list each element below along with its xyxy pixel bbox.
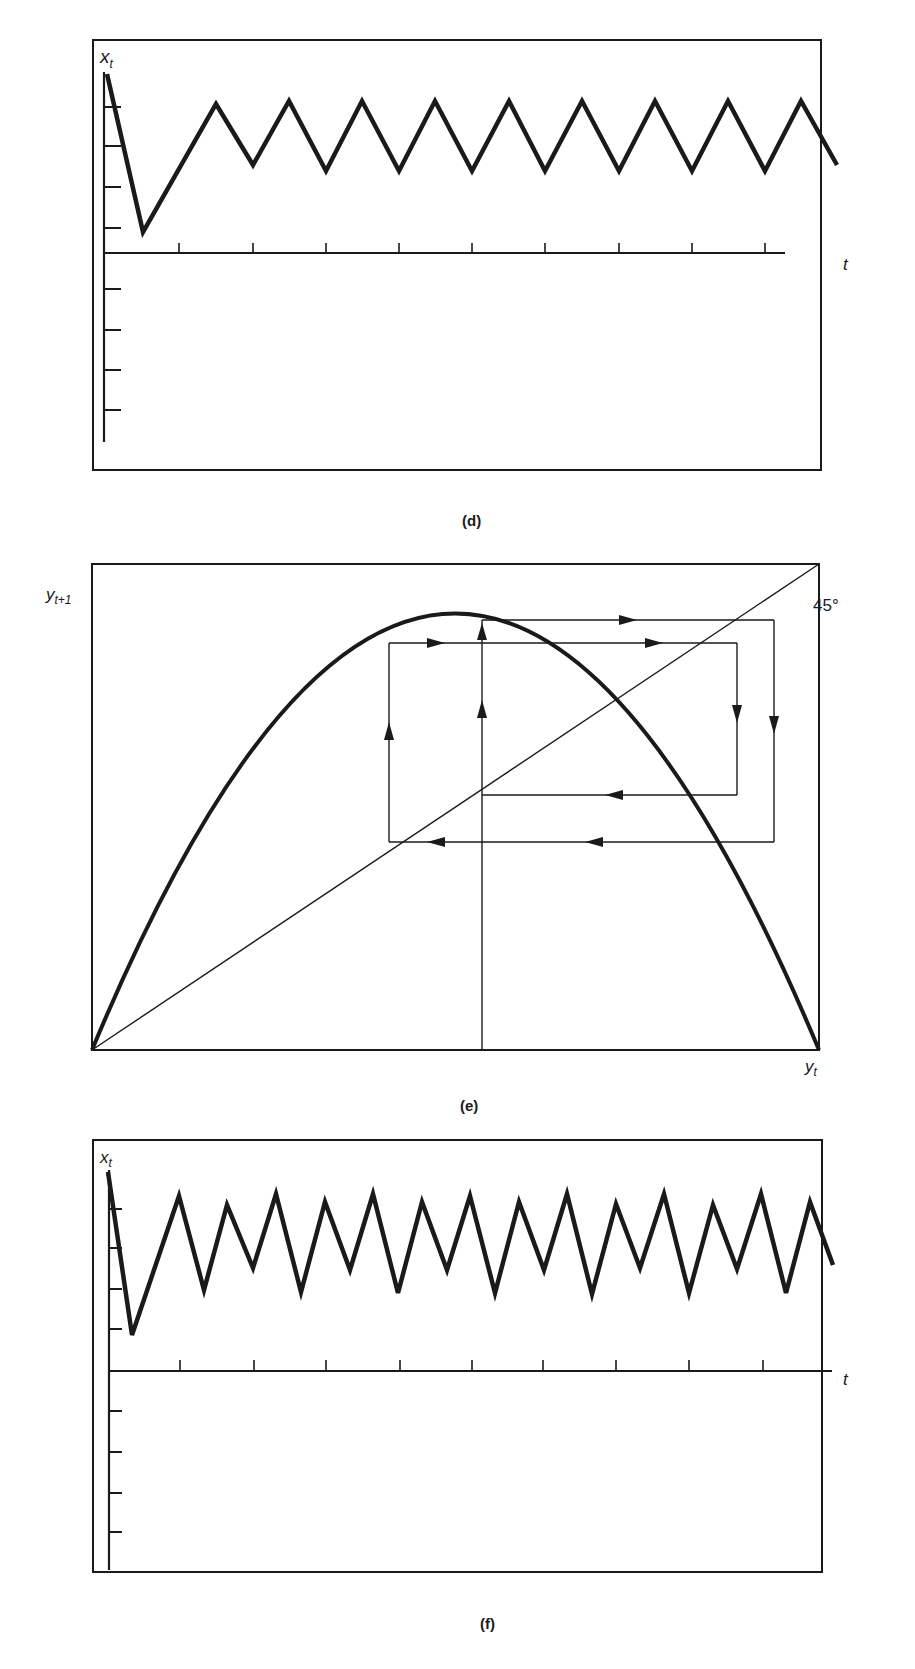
panel-f-x-label: t <box>843 1370 848 1390</box>
panel-f-plot <box>0 0 915 1669</box>
panel-f-y-label-main: x <box>100 1148 109 1167</box>
panel-f-x-ticks <box>180 1360 763 1371</box>
panel-f-y-label-sub: t <box>109 1156 112 1170</box>
panel-f-y-label: xt <box>100 1148 112 1170</box>
panel-f-caption: (f) <box>480 1615 495 1632</box>
panel-f-series-line <box>108 1172 833 1335</box>
